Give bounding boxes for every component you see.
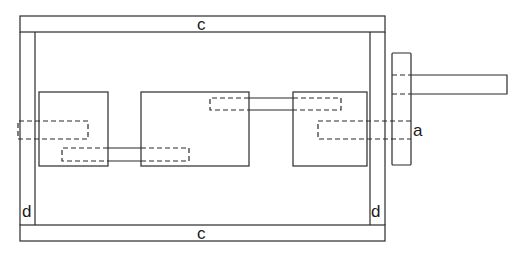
frame-right-post bbox=[370, 32, 385, 225]
lower-connecting-shaft bbox=[62, 148, 189, 161]
label-right-d: d bbox=[371, 202, 380, 221]
label-left-d: d bbox=[22, 202, 31, 221]
upper-connecting-shaft bbox=[210, 98, 341, 110]
label-top-c: c bbox=[197, 15, 206, 34]
output-inner-shaft bbox=[318, 121, 411, 139]
frame-left-post bbox=[20, 32, 35, 225]
output-flange bbox=[392, 53, 411, 165]
left-block bbox=[39, 92, 108, 166]
middle-block bbox=[141, 92, 249, 166]
label-bottom-c: c bbox=[197, 224, 206, 243]
output-shaft bbox=[392, 75, 507, 94]
label-a: a bbox=[413, 121, 423, 140]
gearbox-diagram: c c d d a bbox=[0, 0, 523, 254]
right-block bbox=[293, 92, 367, 166]
left-bearing-shaft bbox=[18, 121, 88, 139]
